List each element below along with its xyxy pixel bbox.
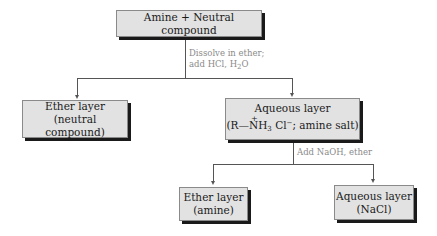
connector-line bbox=[293, 143, 294, 164]
arrow-down-icon bbox=[211, 181, 215, 185]
arrow-down-icon bbox=[290, 93, 294, 97]
aqueous-layer-nacl-box: Aqueous layer (NaCl) bbox=[334, 185, 414, 220]
box-line2: (neutral compound) bbox=[23, 113, 127, 139]
ether-layer-amine-box: Ether layer (amine) bbox=[179, 187, 248, 221]
step1-line2: add HCl, H2O bbox=[189, 59, 264, 73]
step1-line1: Dissolve in ether; bbox=[189, 48, 264, 59]
aqueous-layer-amine-salt-box: Aqueous layer (R—+NH3 Cl−; amine salt) bbox=[225, 98, 360, 140]
connector-line bbox=[77, 78, 78, 96]
box-line1: Ether layer bbox=[45, 100, 105, 113]
connector-line bbox=[213, 164, 374, 165]
arrow-down-icon bbox=[371, 179, 375, 183]
connector-line bbox=[185, 40, 186, 78]
start-box-label: Amine + Neutral compound bbox=[117, 11, 261, 37]
start-box-amine-neutral: Amine + Neutral compound bbox=[116, 10, 262, 37]
connector-line bbox=[373, 164, 374, 180]
box-line2: (NaCl) bbox=[356, 203, 391, 216]
connector-line bbox=[77, 78, 293, 79]
connector-line bbox=[213, 164, 214, 182]
step2-annotation: Add NaOH, ether bbox=[297, 147, 372, 158]
box-line1: Aqueous layer bbox=[336, 190, 412, 203]
ether-layer-neutral-box: Ether layer (neutral compound) bbox=[22, 100, 128, 138]
box-line1: Aqueous layer bbox=[255, 102, 331, 115]
box-line2: (amine) bbox=[193, 204, 234, 217]
box-line1: Ether layer bbox=[183, 191, 243, 204]
step1-annotation: Dissolve in ether; add HCl, H2O bbox=[189, 48, 264, 73]
arrow-down-icon bbox=[75, 95, 79, 99]
amine-salt-formula: (R—+NH3 Cl−; amine salt) bbox=[226, 117, 358, 136]
connector-line bbox=[292, 78, 293, 94]
